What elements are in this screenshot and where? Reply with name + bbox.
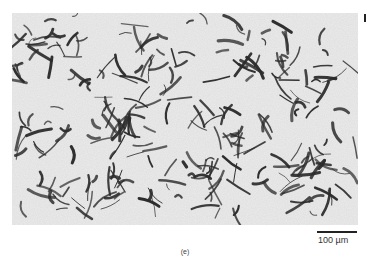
micrograph-image <box>12 13 358 225</box>
scale-bar <box>317 231 357 233</box>
panel-caption: (e) <box>0 248 370 255</box>
edge-mark <box>364 14 366 22</box>
figure: 100 µm (e) <box>0 0 370 267</box>
scale-bar-label: 100 µm <box>318 235 348 245</box>
graphite-flakes-pattern <box>12 13 358 225</box>
